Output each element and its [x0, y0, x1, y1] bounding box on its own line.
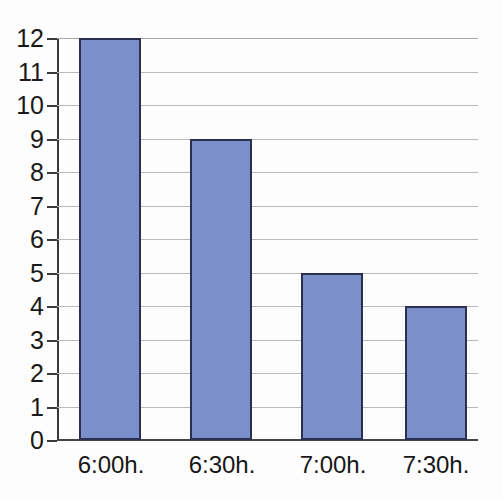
y-axis-tick-mark	[47, 139, 57, 141]
bar-7-00h	[301, 273, 363, 441]
bar-6-30h	[190, 139, 252, 441]
y-axis-tick-mark	[47, 340, 57, 342]
y-axis-tick-label: 0	[4, 428, 44, 453]
y-axis-tick-mark	[47, 273, 57, 275]
y-axis-labels: 12 11 10 9 8 7 6 5 4 3 2 1 0	[0, 0, 44, 501]
x-axis-tick-label: 6:00h.	[50, 452, 172, 478]
y-axis-tick-mark	[47, 72, 57, 74]
x-axis-tick-label: 7:30h.	[375, 452, 497, 478]
y-axis-tick-mark	[47, 105, 57, 107]
y-axis-tick-mark	[47, 38, 57, 40]
y-axis-tick-label: 8	[4, 160, 44, 185]
plot-area	[57, 38, 478, 440]
x-axis-labels: 6:00h. 6:30h. 7:00h. 7:30h.	[57, 452, 478, 492]
bar-6-00h	[79, 38, 141, 440]
y-axis-tick-label: 4	[4, 294, 44, 319]
y-axis-tick-label: 6	[4, 227, 44, 252]
y-axis-tick-mark	[47, 239, 57, 241]
y-axis-tick-label: 5	[4, 260, 44, 285]
y-axis-tick-mark	[47, 373, 57, 375]
y-axis-tick-mark	[47, 172, 57, 174]
y-axis-tick-label: 10	[4, 93, 44, 118]
y-axis-tick-label: 12	[4, 26, 44, 51]
y-axis-tick-label: 2	[4, 361, 44, 386]
bar-chart: 12 11 10 9 8 7 6 5 4 3 2 1 0	[0, 0, 503, 501]
y-axis-tick-mark	[47, 407, 57, 409]
bar-7-30h	[405, 306, 467, 440]
x-axis-tick-label: 6:30h.	[161, 452, 283, 478]
y-axis-tick-label: 1	[4, 394, 44, 419]
y-axis-tick-label: 3	[4, 327, 44, 352]
y-axis-tick-mark	[47, 440, 57, 442]
y-axis-tick-mark	[47, 206, 57, 208]
y-axis-tick-label: 9	[4, 126, 44, 151]
y-axis-tick-label: 7	[4, 193, 44, 218]
y-axis-tick-mark	[47, 306, 57, 308]
y-axis-tick-label: 11	[4, 59, 44, 84]
